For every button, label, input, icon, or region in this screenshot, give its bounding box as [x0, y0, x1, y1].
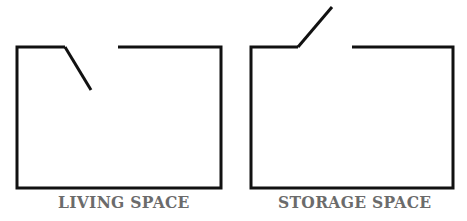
living-space-label: LIVING SPACE [58, 193, 182, 213]
floor-plan-diagram [0, 0, 467, 221]
storage-space-room [251, 7, 453, 188]
storage-space-walls [251, 47, 453, 188]
storage-space-label: STORAGE SPACE [278, 193, 428, 213]
living-space-walls [17, 47, 221, 188]
living-space-door-inward [65, 47, 91, 90]
living-space-room [17, 47, 221, 188]
storage-space-door-outward [298, 7, 332, 47]
